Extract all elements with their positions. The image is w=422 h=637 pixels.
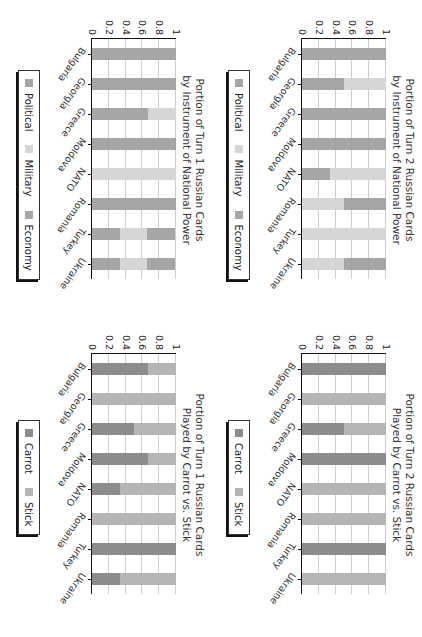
bar-segment-political (92, 198, 176, 210)
legend-label: Stick (24, 502, 35, 526)
x-tick-mark (88, 84, 92, 85)
x-tick-mark (298, 204, 302, 205)
bar-segment-stick (134, 423, 176, 435)
legend-item: Stick (234, 488, 245, 526)
x-tick-mark (88, 204, 92, 205)
gridline (108, 354, 109, 594)
x-tick-mark (88, 174, 92, 175)
legend-swatch (25, 429, 33, 437)
y-tick-label: 0.4 (331, 13, 341, 35)
bar-segment-carrot (302, 363, 386, 375)
legend-swatch (25, 145, 33, 153)
gridline (141, 354, 142, 594)
x-tick-mark (298, 174, 302, 175)
stacked-bar (92, 573, 176, 585)
chart-legend: CarrotStick (228, 420, 250, 535)
legend-item: Economy (24, 211, 35, 271)
y-tick-label: 0.6 (347, 328, 357, 350)
gridline (385, 354, 386, 594)
y-tick-label: 0 (87, 328, 97, 350)
x-tick-mark (298, 84, 302, 85)
stacked-bar (92, 258, 176, 270)
bar-segment-carrot (302, 423, 344, 435)
bar-segment-military (92, 168, 176, 180)
y-tick-label: 1 (171, 13, 181, 35)
gridline (141, 39, 142, 279)
legend-label: Military (234, 159, 245, 196)
x-tick-mark (88, 114, 92, 115)
stacked-bar (92, 48, 176, 60)
x-tick-mark (298, 114, 302, 115)
legend-item: Military (234, 145, 245, 196)
bar-segment-stick (302, 573, 386, 585)
legend-label: Economy (24, 225, 35, 271)
stacked-bar (92, 363, 176, 375)
plot-area: 00.20.40.60.81BulgariaGeorgiaGreeceMoldo… (91, 38, 176, 279)
legend-label: Carrot (24, 443, 35, 474)
bar-segment-carrot (92, 543, 176, 555)
x-tick-label: Ukraine (268, 256, 298, 292)
y-tick-label: 0.6 (137, 328, 147, 350)
chart-turn2-instrument: Portion of Turn 2 Russian Cardsby Instru… (213, 10, 418, 310)
legend-label: Carrot (234, 443, 245, 474)
x-tick-mark (298, 459, 302, 460)
x-tick-mark (88, 234, 92, 235)
gridline (158, 354, 159, 594)
bar-segment-carrot (92, 573, 120, 585)
stacked-bar (92, 393, 176, 405)
bar-segment-stick (92, 393, 176, 405)
chart-title-line: Portion of Turn 1 Russian Cards (193, 10, 206, 310)
bar-segment-carrot (302, 543, 386, 555)
x-tick-mark (88, 519, 92, 520)
stacked-bar (92, 138, 176, 150)
stacked-bar (302, 228, 386, 240)
stacked-bar (302, 393, 386, 405)
chart-title: Portion of Turn 2 Russian CardsPlayed by… (390, 325, 416, 625)
legend-swatch (235, 145, 243, 153)
gridline (318, 354, 319, 594)
legend-swatch (25, 79, 33, 87)
bar-segment-political (92, 108, 148, 120)
y-tick-label: 0.4 (121, 13, 131, 35)
bar-segment-political (302, 48, 386, 60)
x-tick-mark (88, 399, 92, 400)
x-tick-label: Ukraine (58, 571, 88, 607)
gridline (335, 39, 336, 279)
y-tick-label: 1 (381, 13, 391, 35)
bar-segment-military (302, 198, 344, 210)
stacked-bar (92, 543, 176, 555)
x-tick-mark (88, 144, 92, 145)
y-tick-label: 0.4 (331, 328, 341, 350)
stacked-bar (302, 573, 386, 585)
stacked-bar (302, 453, 386, 465)
stacked-bar (92, 108, 176, 120)
bar-segment-stick (120, 573, 176, 585)
x-tick-mark (298, 429, 302, 430)
y-tick-label: 0.8 (154, 13, 164, 35)
legend-item: Carrot (24, 429, 35, 474)
bar-segment-economy (147, 258, 175, 270)
bar-segment-carrot (92, 423, 134, 435)
y-tick-label: 0.6 (137, 13, 147, 35)
bar-segment-political (92, 258, 120, 270)
y-tick-label: 0.8 (154, 328, 164, 350)
legend-label: Economy (234, 225, 245, 271)
y-tick-label: 0 (87, 13, 97, 35)
bar-segment-military (120, 228, 148, 240)
gridline (368, 39, 369, 279)
stacked-bar (302, 258, 386, 270)
gridline (385, 39, 386, 279)
chart-title: Portion of Turn 2 Russian Cardsby Instru… (390, 10, 416, 310)
bar-segment-carrot (302, 453, 386, 465)
stacked-bar (92, 78, 176, 90)
chart-title-line: Portion of Turn 2 Russian Cards (403, 10, 416, 310)
y-tick-label: 0.2 (314, 328, 324, 350)
bar-segment-political (92, 48, 176, 60)
chart-turn2-carrot-stick: Portion of Turn 2 Russian CardsPlayed by… (213, 325, 418, 625)
gridline (175, 354, 176, 594)
bar-segment-political (92, 228, 120, 240)
chart-title-line: Played by Carrot vs. Stick (390, 325, 403, 625)
stacked-bar (302, 138, 386, 150)
gridline (335, 354, 336, 594)
gridline (125, 39, 126, 279)
